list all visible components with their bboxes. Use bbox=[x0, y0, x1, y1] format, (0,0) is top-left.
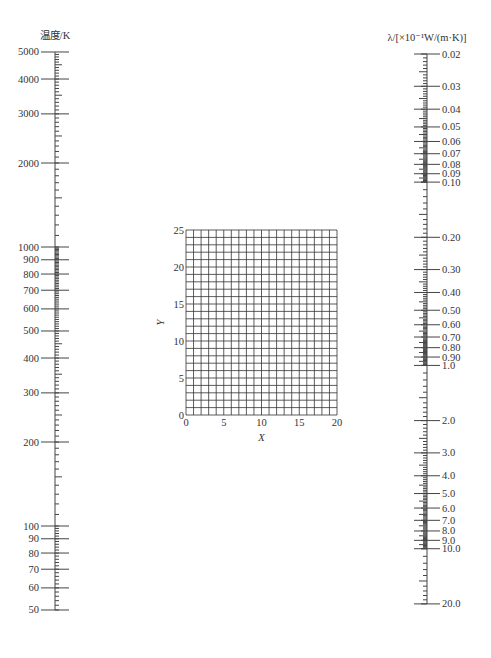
tick-label: 80 bbox=[29, 548, 40, 559]
tick-label: 7.0 bbox=[442, 515, 455, 526]
y-tick-label: 5 bbox=[179, 373, 184, 384]
tick-label: 90 bbox=[29, 533, 40, 544]
temperature-axis-title: 温度/K bbox=[40, 29, 71, 41]
xy-grid: 051015200510152025XY bbox=[155, 225, 342, 444]
tick-label: 800 bbox=[23, 269, 39, 280]
tick-label: 0.03 bbox=[442, 81, 460, 92]
tick-label: 0.60 bbox=[442, 319, 460, 330]
tick-label: 3.0 bbox=[442, 447, 455, 458]
tick-label: 50 bbox=[29, 604, 40, 615]
tick-label: 10.0 bbox=[442, 543, 460, 554]
y-tick-label: 25 bbox=[174, 225, 185, 236]
nomogram-chart: 温度/K500040003000200010009008007006005004… bbox=[0, 0, 491, 658]
tick-label: 0.06 bbox=[442, 136, 460, 147]
thermal-conductivity-scale: λ/[×10⁻¹W/(m·K)]0.020.030.040.050.060.07… bbox=[387, 32, 466, 609]
tick-label: 200 bbox=[23, 437, 39, 448]
tick-label: 0.02 bbox=[442, 49, 460, 60]
tick-label: 700 bbox=[23, 285, 39, 296]
tick-label: 0.20 bbox=[442, 232, 460, 243]
y-tick-label: 15 bbox=[174, 299, 185, 310]
tick-label: 100 bbox=[23, 521, 39, 532]
tick-label: 0.04 bbox=[442, 104, 461, 115]
tick-label: 4000 bbox=[18, 74, 39, 85]
x-axis-label: X bbox=[257, 432, 265, 443]
y-axis-label: Y bbox=[155, 318, 166, 325]
tick-label: 500 bbox=[23, 325, 39, 336]
tick-label: 60 bbox=[29, 582, 40, 593]
tick-label: 400 bbox=[23, 353, 39, 364]
tick-label: 300 bbox=[23, 387, 39, 398]
tick-label: 600 bbox=[23, 303, 39, 314]
x-tick-label: 5 bbox=[221, 417, 226, 428]
lambda-axis-title: λ/[×10⁻¹W/(m·K)] bbox=[387, 32, 466, 44]
tick-label: 0.30 bbox=[442, 264, 460, 275]
x-tick-label: 20 bbox=[332, 417, 343, 428]
tick-label: 0.70 bbox=[442, 332, 460, 343]
tick-label: 900 bbox=[23, 254, 39, 265]
tick-label: 2.0 bbox=[442, 415, 455, 426]
x-tick-label: 10 bbox=[256, 417, 267, 428]
y-tick-label: 10 bbox=[174, 336, 185, 347]
x-tick-label: 0 bbox=[183, 417, 188, 428]
tick-label: 0.07 bbox=[442, 148, 460, 159]
tick-label: 6.0 bbox=[442, 503, 455, 514]
tick-label: 20.0 bbox=[442, 598, 460, 609]
x-tick-label: 15 bbox=[294, 417, 305, 428]
tick-label: 70 bbox=[29, 564, 40, 575]
temperature-scale: 温度/K500040003000200010009008007006005004… bbox=[18, 29, 71, 616]
tick-label: 5.0 bbox=[442, 488, 455, 499]
tick-label: 0.10 bbox=[442, 177, 460, 188]
tick-label: 1.0 bbox=[442, 360, 455, 371]
tick-label: 3000 bbox=[18, 108, 39, 119]
y-tick-label: 0 bbox=[179, 410, 184, 421]
y-tick-label: 20 bbox=[174, 262, 185, 273]
tick-label: 5000 bbox=[18, 46, 39, 57]
tick-label: 0.40 bbox=[442, 287, 460, 298]
tick-label: 4.0 bbox=[442, 470, 455, 481]
tick-label: 0.05 bbox=[442, 121, 460, 132]
tick-label: 2000 bbox=[18, 158, 39, 169]
tick-label: 1000 bbox=[18, 242, 39, 253]
tick-label: 0.50 bbox=[442, 305, 460, 316]
